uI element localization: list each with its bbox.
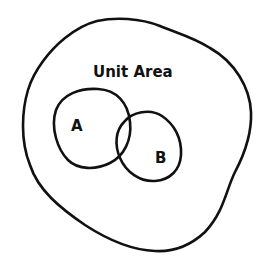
set-a-label: A	[71, 117, 83, 135]
unit-area-label: Unit Area	[93, 63, 173, 81]
venn-diagram: Unit Area A B	[0, 0, 270, 278]
unit-area-boundary	[23, 19, 251, 251]
set-b-label: B	[155, 149, 166, 167]
